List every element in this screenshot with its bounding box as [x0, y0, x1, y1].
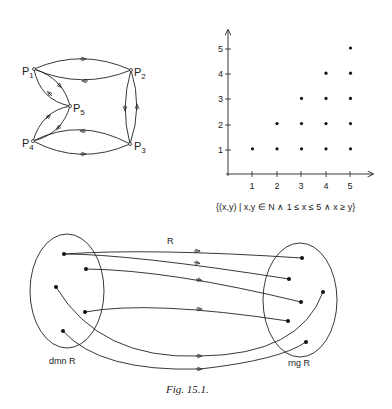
data-point	[300, 147, 303, 150]
node-label-p2: P2	[134, 66, 146, 81]
range-label: rng R	[288, 358, 311, 368]
range-set	[263, 243, 337, 357]
scatter-chart: 1 2 3 4 5 1 2 3 4 5 {(x,y) | x,y ∈ N ∧ 1…	[216, 30, 373, 212]
relation-diagram	[30, 234, 337, 369]
edge-p3-p4	[33, 130, 130, 144]
data-point	[300, 97, 303, 100]
node-label-p3: P3	[134, 140, 146, 155]
y-tick-2: 2	[218, 120, 223, 130]
y-tick-1: 1	[218, 145, 223, 155]
data-point	[324, 147, 327, 150]
data-point	[324, 122, 327, 125]
domain-label: dmn R	[49, 356, 76, 366]
figure-canvas: P1 P2 P3 P4 P5 1 2 3 4 5 1	[0, 0, 392, 409]
y-tick-4: 4	[218, 69, 223, 79]
relation-arrow	[63, 331, 306, 369]
data-point	[300, 122, 303, 125]
node-label-p1: P1	[22, 65, 34, 80]
data-point	[349, 46, 352, 49]
edge-p3-p2	[130, 70, 137, 144]
edge-p5-p1	[34, 69, 70, 106]
edge-p1-p5	[34, 69, 70, 106]
data-point	[251, 147, 254, 150]
directed-graph	[33, 59, 137, 155]
y-tick-3: 3	[218, 94, 223, 104]
x-tick-5: 5	[347, 181, 352, 191]
graph-nodes: P1 P2 P3 P4 P5	[22, 65, 146, 155]
data-point	[349, 72, 352, 75]
data-point	[275, 147, 278, 150]
relation-label: R	[167, 236, 174, 246]
edge-p4-p3	[33, 141, 130, 154]
data-point	[349, 97, 352, 100]
edge-p1-p2	[34, 59, 131, 70]
domain-set	[30, 234, 104, 348]
relation-arrow	[64, 252, 302, 258]
node-label-p5: P5	[73, 102, 85, 117]
relation-arrow	[64, 254, 289, 279]
data-point	[324, 72, 327, 75]
data-point	[275, 122, 278, 125]
set-annotation: {(x,y) | x,y ∈ N ∧ 1 ≤ x ≤ 5 ∧ x ≥ y}	[216, 202, 355, 212]
edge-p4-p5	[33, 106, 70, 141]
edge-p5-p4	[33, 106, 70, 141]
x-tick-1: 1	[249, 181, 254, 191]
y-tick-5: 5	[218, 44, 223, 54]
x-tick-4: 4	[323, 181, 328, 191]
figure-caption: Fig. 15.1.	[165, 383, 209, 395]
data-point	[324, 97, 327, 100]
edge-p2-p3	[125, 70, 131, 144]
data-points	[251, 46, 352, 150]
data-point	[349, 147, 352, 150]
data-point	[349, 122, 352, 125]
relation-arrow	[85, 308, 288, 321]
x-tick-3: 3	[298, 181, 303, 191]
relation-arrow	[86, 269, 301, 302]
x-tick-2: 2	[274, 181, 279, 191]
edge-p2-p1	[34, 69, 131, 80]
